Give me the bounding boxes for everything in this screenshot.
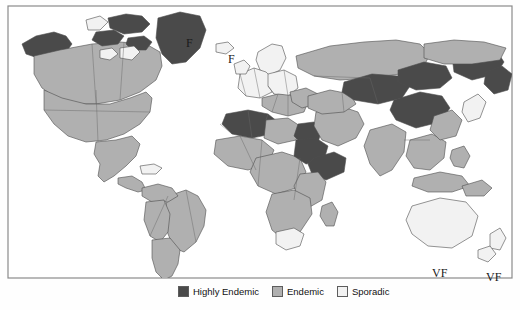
annotation-vf-pacific: VF: [486, 270, 501, 285]
world-map-svg: [0, 0, 520, 310]
world-map-figure: F F VF VF Highly Endemic Endemic Sporadi…: [0, 0, 520, 310]
annotation-vf-newzealand: VF: [432, 266, 447, 281]
legend-item-endemic: Endemic: [272, 286, 324, 297]
annotation-f-greenland: F: [186, 36, 193, 51]
legend-swatch-sporadic: [337, 286, 348, 297]
annotation-f-iceland: F: [228, 52, 235, 67]
legend-label-sporadic: Sporadic: [352, 287, 390, 297]
legend-swatch-endemic: [272, 286, 283, 297]
legend-item-sporadic: Sporadic: [337, 286, 390, 297]
legend-swatch-highly-endemic: [178, 286, 189, 297]
map-legend: Highly Endemic Endemic Sporadic: [178, 286, 389, 297]
legend-label-endemic: Endemic: [287, 287, 324, 297]
legend-item-highly-endemic: Highly Endemic: [178, 286, 259, 297]
legend-label-highly-endemic: Highly Endemic: [193, 287, 259, 297]
